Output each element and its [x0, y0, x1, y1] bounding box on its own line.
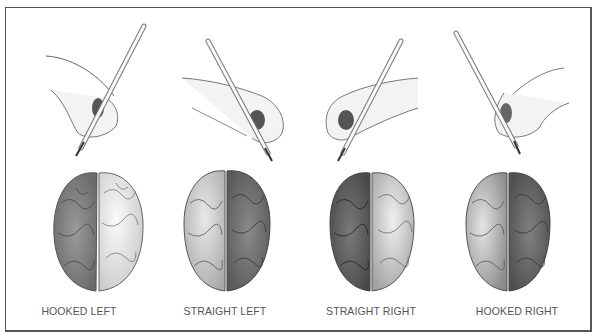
- panel-straight-right: STRAIGHT RIGHT: [298, 8, 444, 330]
- brain-illustration: [298, 8, 444, 308]
- caption-straight-left: STRAIGHT LEFT: [152, 305, 298, 317]
- brain-illustration: [6, 8, 152, 308]
- caption-hooked-right: HOOKED RIGHT: [444, 305, 590, 317]
- panel-hooked-left: HOOKED LEFT: [6, 8, 152, 330]
- caption-straight-right: STRAIGHT RIGHT: [298, 305, 444, 317]
- caption-hooked-left: HOOKED LEFT: [6, 305, 152, 317]
- brain-illustration: [444, 8, 590, 308]
- brain-illustration: [152, 8, 298, 308]
- panel-straight-left: STRAIGHT LEFT: [152, 8, 298, 330]
- panel-hooked-right: HOOKED RIGHT: [444, 8, 590, 330]
- figure-frame: HOOKED LEFT STRAIGHT LEFT: [5, 7, 592, 332]
